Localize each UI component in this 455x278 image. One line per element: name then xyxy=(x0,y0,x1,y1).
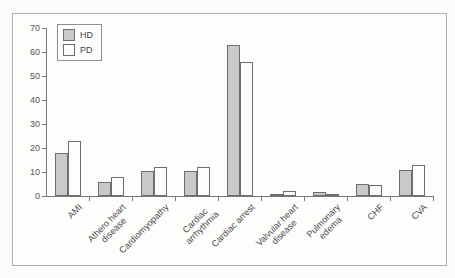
y-tick xyxy=(42,100,46,101)
legend-label-hd: HD xyxy=(80,30,93,40)
y-tick-label: 40 xyxy=(16,95,40,105)
y-tick-label: 10 xyxy=(16,167,40,177)
y-tick-label: 50 xyxy=(16,71,40,81)
bar-hd-7 xyxy=(356,184,369,196)
y-tick xyxy=(42,28,46,29)
y-tick xyxy=(42,124,46,125)
bar-pd-6 xyxy=(326,194,339,196)
bar-hd-0 xyxy=(55,153,68,196)
bar-pd-4 xyxy=(240,62,253,196)
y-tick-label: 20 xyxy=(16,143,40,153)
y-tick xyxy=(42,52,46,53)
x-tick xyxy=(218,197,219,201)
x-tick xyxy=(261,197,262,201)
x-category-label: AMI xyxy=(66,202,84,220)
y-tick xyxy=(42,148,46,149)
bar-pd-3 xyxy=(197,167,210,196)
bar-pd-2 xyxy=(154,167,167,196)
y-tick-label: 0 xyxy=(16,191,40,201)
bar-hd-2 xyxy=(141,171,154,196)
x-category-label: CHF xyxy=(365,202,385,222)
bar-hd-8 xyxy=(399,170,412,196)
x-tick xyxy=(304,197,305,201)
x-axis-line xyxy=(46,196,434,197)
x-tick xyxy=(89,197,90,201)
bar-hd-5 xyxy=(270,194,283,196)
x-category-label: Valvular heart disease xyxy=(254,202,307,255)
y-tick xyxy=(42,76,46,77)
x-tick xyxy=(390,197,391,201)
bar-hd-3 xyxy=(184,171,197,196)
x-tick xyxy=(175,197,176,201)
legend-entry-hd: HD xyxy=(63,29,93,41)
legend-label-pd: PD xyxy=(80,45,93,55)
figure: 010203040506070AMIAthero heart diseaseCa… xyxy=(0,0,455,278)
bar-pd-0 xyxy=(68,141,81,196)
y-tick-label: 60 xyxy=(16,47,40,57)
legend: HD PD xyxy=(57,24,102,61)
y-axis-line xyxy=(46,28,47,197)
x-category-label: Cardiac arrest xyxy=(210,202,257,249)
bar-hd-6 xyxy=(313,192,326,196)
bar-pd-8 xyxy=(412,165,425,196)
x-tick xyxy=(433,197,434,201)
legend-entry-pd: PD xyxy=(63,44,93,56)
y-tick-label: 30 xyxy=(16,119,40,129)
legend-swatch-pd-icon xyxy=(63,44,75,56)
y-tick-label: 70 xyxy=(16,23,40,33)
y-tick xyxy=(42,172,46,173)
legend-swatch-hd-icon xyxy=(63,29,75,41)
bar-hd-4 xyxy=(227,45,240,196)
bar-pd-1 xyxy=(111,177,124,196)
x-tick xyxy=(347,197,348,201)
bar-pd-5 xyxy=(283,191,296,196)
x-tick xyxy=(132,197,133,201)
bar-hd-1 xyxy=(98,182,111,196)
x-category-label: Pulmonary edema xyxy=(305,202,350,247)
y-tick xyxy=(42,196,46,197)
x-category-label: CVA xyxy=(409,202,429,222)
bar-pd-7 xyxy=(369,185,382,196)
